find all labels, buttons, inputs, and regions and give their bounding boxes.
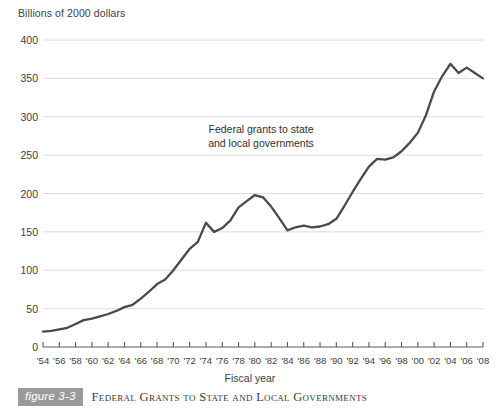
x-tick-label: '88 (314, 355, 326, 366)
x-tick-label: '08 (477, 355, 489, 366)
x-tick-label: '78 (232, 355, 244, 366)
figure-title: Federal Grants to State and Local Govern… (92, 390, 367, 405)
x-tick-label: '90 (330, 355, 342, 366)
x-tick-label: '00 (412, 355, 424, 366)
x-tick-label: '66 (135, 355, 147, 366)
annotation-line-2: and local governments (176, 136, 346, 150)
chart-plot-area (0, 0, 500, 412)
x-tick-label: '96 (379, 355, 391, 366)
x-tick-label: '58 (69, 355, 81, 366)
x-tick-label: '76 (216, 355, 228, 366)
x-tick-label: '74 (200, 355, 212, 366)
x-tick-label: '56 (53, 355, 65, 366)
x-tick-label: '98 (395, 355, 407, 366)
x-tick-label: '62 (102, 355, 114, 366)
x-tick-label: '70 (167, 355, 179, 366)
figure-caption: figure 3-3 Federal Grants to State and L… (18, 388, 367, 406)
x-axis-title: Fiscal year (0, 372, 500, 384)
x-tick-label: '06 (461, 355, 473, 366)
x-tick-label: '72 (183, 355, 195, 366)
x-tick-label: '64 (118, 355, 130, 366)
series-line (43, 64, 483, 332)
x-tick-label: '94 (363, 355, 375, 366)
figure-number-badge: figure 3-3 (18, 388, 83, 406)
x-tick-label: '82 (265, 355, 277, 366)
x-tick-label: '02 (428, 355, 440, 366)
x-tick-label: '84 (281, 355, 293, 366)
x-tick-label: '68 (151, 355, 163, 366)
x-tick-label: '04 (444, 355, 456, 366)
x-tick-label: '60 (86, 355, 98, 366)
x-axis-tick-labels: '54'56'58'60'62'64'66'68'70'72'74'76'78'… (0, 355, 500, 371)
x-tick-label: '86 (298, 355, 310, 366)
series-annotation: Federal grants to state and local govern… (176, 122, 346, 150)
x-tick-label: '54 (37, 355, 49, 366)
x-tick-label: '92 (346, 355, 358, 366)
annotation-line-1: Federal grants to state (176, 122, 346, 136)
x-tick-label: '80 (249, 355, 261, 366)
figure-federal-grants: Billions of 2000 dollars 050100150200250… (0, 0, 500, 412)
